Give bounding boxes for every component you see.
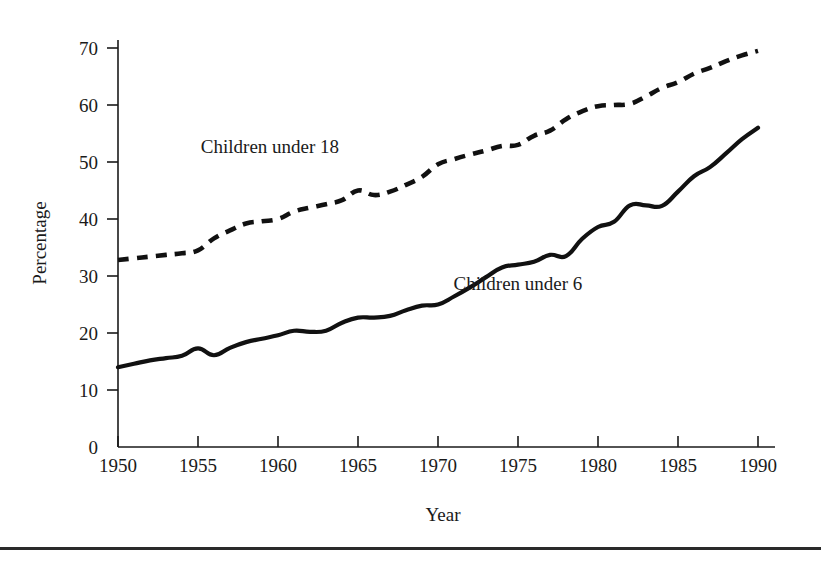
x-tick-label: 1955 [179, 455, 217, 476]
y-tick-label: 0 [89, 437, 99, 458]
x-axis-tick-labels: 1950 1955 1960 1965 1970 1975 1980 1985 … [99, 455, 777, 476]
y-axis-ticks [107, 48, 118, 390]
figure-container: 70 60 50 40 30 20 10 0 1950 1955 1960 1 [0, 0, 821, 566]
x-tick-label: 1950 [99, 455, 137, 476]
x-tick-label: 1985 [659, 455, 697, 476]
x-tick-label: 1980 [579, 455, 617, 476]
x-axis-title: Year [425, 504, 461, 525]
x-axis-ticks [118, 436, 758, 447]
y-tick-label: 40 [79, 209, 98, 230]
y-tick-label: 70 [79, 38, 98, 59]
y-tick-label: 50 [79, 152, 98, 173]
x-tick-label: 1965 [339, 455, 377, 476]
y-tick-label: 20 [79, 323, 98, 344]
x-tick-label: 1960 [259, 455, 297, 476]
x-tick-label: 1975 [499, 455, 537, 476]
series-annotation-children-under-6: Children under 6 [454, 273, 583, 294]
y-tick-label: 30 [79, 266, 98, 287]
line-chart: 70 60 50 40 30 20 10 0 1950 1955 1960 1 [0, 0, 821, 566]
x-tick-label: 1990 [739, 455, 777, 476]
series-annotation-children-under-18: Children under 18 [201, 136, 339, 157]
y-tick-label: 60 [79, 95, 98, 116]
y-axis-tick-labels: 70 60 50 40 30 20 10 0 [79, 38, 98, 458]
y-axis-title: Percentage [29, 201, 50, 284]
x-tick-label: 1970 [419, 455, 457, 476]
bottom-divider-rule [0, 547, 821, 550]
y-tick-label: 10 [79, 380, 98, 401]
